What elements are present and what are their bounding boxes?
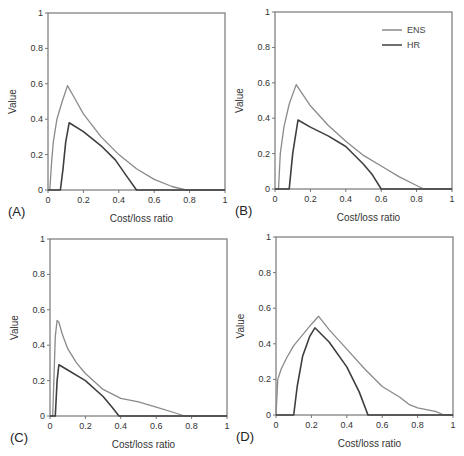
y-tick-label: 0.6 bbox=[30, 79, 43, 89]
plot-frame bbox=[50, 239, 227, 416]
series-ens-line bbox=[276, 316, 453, 415]
x-tick-label: 0.2 bbox=[304, 194, 317, 204]
x-axis-title: Cost/loss ratio bbox=[337, 212, 401, 223]
x-tick-label: 0.4 bbox=[113, 195, 126, 205]
y-axis-title: Value bbox=[235, 313, 246, 338]
x-tick-label: 0 bbox=[45, 195, 50, 205]
legend: ENSHR bbox=[382, 25, 426, 50]
panel-a: 00.20.40.60.8100.20.40.60.81Cost/loss ra… bbox=[7, 8, 228, 224]
x-tick-label: 1 bbox=[224, 421, 229, 431]
y-tick-label: 0.2 bbox=[258, 374, 271, 384]
panel-b: 00.20.40.60.8100.20.40.60.81Cost/loss ra… bbox=[234, 7, 455, 223]
y-tick-label: 1 bbox=[265, 7, 270, 17]
x-tick-label: 0.8 bbox=[411, 420, 424, 430]
x-tick-label: 0.6 bbox=[375, 194, 388, 204]
x-tick-label: 0.6 bbox=[150, 421, 163, 431]
series-hr-line bbox=[50, 365, 227, 416]
y-tick-label: 0.8 bbox=[258, 268, 271, 278]
x-tick-label: 0.4 bbox=[115, 421, 128, 431]
y-tick-label: 0.4 bbox=[32, 340, 45, 350]
y-axis-title: Value bbox=[9, 315, 20, 340]
panel-label: (B) bbox=[235, 203, 252, 218]
x-tick-label: 1 bbox=[449, 194, 454, 204]
x-tick-label: 0.2 bbox=[79, 421, 92, 431]
x-tick-label: 0.8 bbox=[410, 194, 423, 204]
y-axis-title: Value bbox=[234, 88, 245, 113]
y-tick-label: 0.8 bbox=[30, 43, 43, 53]
y-tick-label: 0.8 bbox=[257, 42, 270, 52]
panel-label: (C) bbox=[10, 430, 28, 445]
y-tick-label: 0 bbox=[38, 185, 43, 195]
y-tick-label: 0.8 bbox=[32, 269, 45, 279]
y-tick-label: 1 bbox=[266, 232, 271, 242]
x-tick-label: 1 bbox=[222, 195, 227, 205]
series-hr-line bbox=[276, 328, 453, 415]
y-tick-label: 0.2 bbox=[32, 376, 45, 386]
legend-label-ens: ENS bbox=[407, 25, 426, 35]
series-hr-line bbox=[275, 120, 452, 189]
x-tick-label: 0 bbox=[47, 421, 52, 431]
y-tick-label: 1 bbox=[38, 8, 43, 18]
x-tick-label: 0.2 bbox=[77, 195, 90, 205]
y-tick-label: 0.6 bbox=[257, 78, 270, 88]
plot-frame bbox=[276, 237, 453, 415]
y-tick-label: 0 bbox=[266, 410, 271, 420]
plot-frame bbox=[275, 12, 452, 189]
figure: 00.20.40.60.8100.20.40.60.81Cost/loss ra… bbox=[0, 0, 464, 456]
x-tick-label: 0.8 bbox=[183, 195, 196, 205]
x-tick-label: 0 bbox=[272, 194, 277, 204]
y-tick-label: 0.4 bbox=[257, 113, 270, 123]
panel-c: 00.20.40.60.8100.20.40.60.81Cost/loss ra… bbox=[9, 234, 230, 450]
panel-label: (A) bbox=[8, 204, 25, 219]
y-tick-label: 0.6 bbox=[258, 303, 271, 313]
x-tick-label: 1 bbox=[450, 420, 455, 430]
x-tick-label: 0.8 bbox=[185, 421, 198, 431]
panel-d: 00.20.40.60.8100.20.40.60.81Cost/loss ra… bbox=[235, 232, 456, 449]
series-ens-line bbox=[275, 85, 452, 189]
y-tick-label: 0 bbox=[265, 184, 270, 194]
x-tick-label: 0 bbox=[273, 420, 278, 430]
x-tick-label: 0.6 bbox=[376, 420, 389, 430]
y-tick-label: 0.2 bbox=[30, 150, 43, 160]
y-tick-label: 1 bbox=[40, 234, 45, 244]
y-tick-label: 0.2 bbox=[257, 149, 270, 159]
x-axis-title: Cost/loss ratio bbox=[112, 439, 176, 450]
x-axis-title: Cost/loss ratio bbox=[110, 213, 174, 224]
y-tick-label: 0.6 bbox=[32, 305, 45, 315]
y-tick-label: 0.4 bbox=[30, 114, 43, 124]
plot-frame bbox=[48, 13, 225, 190]
y-tick-label: 0 bbox=[40, 411, 45, 421]
panel-label: (D) bbox=[236, 429, 254, 444]
x-axis-title: Cost/loss ratio bbox=[338, 438, 402, 449]
x-tick-label: 0.6 bbox=[148, 195, 161, 205]
legend-label-hr: HR bbox=[407, 40, 420, 50]
x-tick-label: 0.4 bbox=[340, 194, 353, 204]
x-tick-label: 0.2 bbox=[305, 420, 318, 430]
y-axis-title: Value bbox=[7, 89, 18, 114]
series-ens-line bbox=[48, 86, 225, 190]
series-hr-line bbox=[48, 123, 225, 190]
y-tick-label: 0.4 bbox=[258, 339, 271, 349]
x-tick-label: 0.4 bbox=[341, 420, 354, 430]
series-ens-line bbox=[50, 320, 227, 416]
